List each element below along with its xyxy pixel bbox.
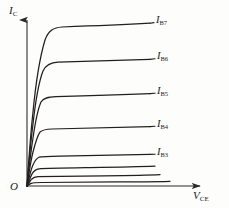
x-axis-label: VCE xyxy=(193,190,209,201)
curve-IB1b xyxy=(27,175,160,186)
curve-label-ib5: IB5 xyxy=(157,86,168,97)
curve-label-ib5-symbol: I xyxy=(157,85,161,96)
curve-label-ib4-subscript: B4 xyxy=(161,123,169,130)
curve-label-ib5-subscript: B5 xyxy=(161,90,169,97)
curve-label-ib6-subscript: B6 xyxy=(161,55,169,62)
origin-label: O xyxy=(10,181,18,192)
leader-IB6 xyxy=(150,59,155,60)
characteristic-curves-plot xyxy=(0,0,229,208)
curve-IB5 xyxy=(27,94,150,186)
curve-label-ib3-symbol: I xyxy=(157,146,161,157)
y-axis-subscript: C xyxy=(13,10,18,18)
curves-group xyxy=(27,23,170,186)
curve-label-ib7-symbol: I xyxy=(156,14,160,25)
figure-canvas: IC VCE O IB7 IB6 IB5 IB4 IB3 xyxy=(0,0,229,208)
curve-label-ib6-symbol: I xyxy=(157,50,161,61)
curve-label-ib3: IB3 xyxy=(157,147,168,158)
leader-lines-group xyxy=(150,23,155,155)
x-axis-symbol: V xyxy=(193,189,200,201)
curve-label-ib4: IB4 xyxy=(157,119,168,130)
x-axis-subscript: CE xyxy=(200,195,209,203)
curve-label-ib7: IB7 xyxy=(156,15,167,26)
curve-label-ib6: IB6 xyxy=(157,51,168,62)
curve-label-ib4-symbol: I xyxy=(157,118,161,129)
curve-IB3 xyxy=(27,154,150,186)
leader-IB7 xyxy=(150,23,154,24)
curve-label-ib3-subscript: B3 xyxy=(161,151,169,158)
curve-IB7 xyxy=(27,23,150,186)
curve-label-ib7-subscript: B7 xyxy=(160,19,168,26)
y-axis-label: IC xyxy=(9,5,17,16)
